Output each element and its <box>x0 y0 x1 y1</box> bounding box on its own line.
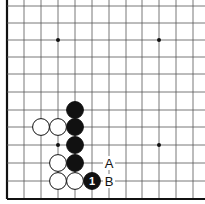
position-label-b: B <box>105 174 114 189</box>
star-point-icon <box>56 38 60 42</box>
star-point-icon <box>157 38 161 42</box>
move-number: 1 <box>89 175 95 187</box>
black-stone: 1 <box>84 173 101 190</box>
white-stone <box>50 173 67 190</box>
white-stone <box>33 119 50 136</box>
white-stone <box>50 155 67 172</box>
black-stone <box>67 119 84 136</box>
star-point-icon <box>157 143 161 147</box>
white-stone <box>50 119 67 136</box>
position-label-a: A <box>105 156 114 171</box>
black-stone <box>67 102 84 119</box>
white-stone <box>67 173 84 190</box>
black-stone <box>67 155 84 172</box>
stones: 1 <box>33 102 101 190</box>
star-point-icon <box>56 143 60 147</box>
go-board-diagram: 1 AB <box>0 0 205 204</box>
black-stone <box>67 137 84 154</box>
